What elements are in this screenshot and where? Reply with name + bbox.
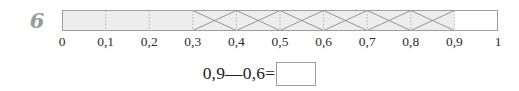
exercise-container: 6 [0,0,519,91]
answer-input-box[interactable] [276,62,316,86]
axis-tick-label-0: 0 [59,33,66,50]
equation-row: 0,9—0,6= [0,58,519,89]
axis-tick-label-0-4: 0,4 [228,33,245,50]
axis-tick-label-1: 1 [495,33,502,50]
number-line-bar-model [62,10,498,31]
empty-region [454,11,497,31]
problem-number: 6 [22,8,52,34]
axis-tick-label-0-7: 0,7 [359,33,376,50]
axis-tick-label-0-5: 0,5 [272,33,289,50]
axis-tick-label-0-9: 0,9 [446,33,463,50]
axis-tick-label-0-6: 0,6 [315,33,332,50]
axis-tick-label-0-2: 0,2 [141,33,158,50]
axis-tick-label-0-1: 0,1 [97,33,114,50]
axis-tick-label-0-3: 0,3 [184,33,201,50]
axis-tick-label-0-8: 0,8 [402,33,419,50]
axis-label-row: 0 0,1 0,2 0,3 0,4 0,5 0,6 0,7 0,8 0,9 1 [0,33,519,50]
bar-model-svg [62,10,498,31]
equation-expression: 0,9—0,6= [203,63,276,84]
